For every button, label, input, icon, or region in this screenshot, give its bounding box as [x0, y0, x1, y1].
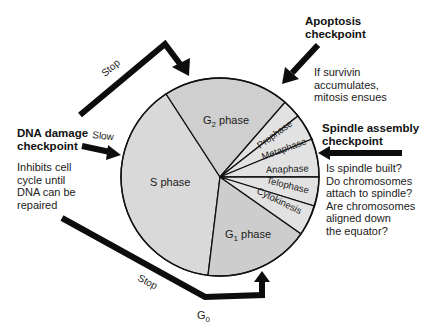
apoptosis-title-line1: Apoptosis [305, 15, 366, 28]
dna-damage-desc-line: cycle until [17, 174, 76, 187]
apoptosis-desc-line: accumulates, [314, 79, 387, 92]
spindle-desc-line: Is spindle built? [326, 162, 415, 175]
arrowhead-icon [318, 146, 330, 160]
dna-damage-title-line1: DNA damage [17, 127, 88, 140]
apoptosis-title-line2: checkpoint [305, 28, 366, 41]
arrowhead-icon [254, 271, 270, 282]
apoptosis-checkpoint-title: Apoptosis checkpoint [305, 15, 366, 41]
dna-damage-checkpoint-title: DNA damage checkpoint [17, 127, 88, 153]
spindle-arrow [318, 146, 402, 160]
cell-cycle-wheel: G2 phase S phase G1 phase Prophase Metap… [121, 78, 319, 276]
spindle-title-line2: checkpoint [322, 135, 419, 148]
spindle-desc-line: attach to spindle? [326, 187, 415, 200]
spindle-assembly-description: Is spindle built? Do chromosomes attach … [326, 162, 415, 237]
spindle-desc-line: the equator? [326, 225, 415, 238]
dna-damage-title-line2: checkpoint [17, 140, 88, 153]
g0-label: G0 [197, 309, 211, 324]
dna-damage-description: Inhibits cell cycle until DNA can be rep… [17, 161, 76, 211]
dna-damage-desc-line: Inhibits cell [17, 161, 76, 174]
bottom-stop-label: Stop [136, 272, 160, 292]
apoptosis-desc-line: If survivin [314, 66, 387, 79]
spindle-assembly-checkpoint-title: Spindle assembly checkpoint [322, 122, 419, 148]
spindle-title-line1: Spindle assembly [322, 122, 419, 135]
spindle-desc-line: Are chromosomes [326, 200, 415, 213]
dna-damage-desc-line: DNA can be [17, 186, 76, 199]
apoptosis-description: If survivin accumulates, mitosis ensues [314, 66, 387, 104]
dna-damage-desc-line: repaired [17, 199, 76, 212]
apoptosis-desc-line: mitosis ensues [314, 91, 387, 104]
arrowhead-icon [106, 145, 121, 160]
top-stop-label: Stop [99, 57, 122, 79]
slow-label: Slow [92, 129, 115, 142]
anaphase-label: Anaphase [266, 163, 309, 175]
apoptosis-arrow [282, 45, 318, 84]
spindle-desc-line: aligned down [326, 212, 415, 225]
s-phase-label: S phase [150, 176, 190, 188]
spindle-desc-line: Do chromosomes [326, 175, 415, 188]
